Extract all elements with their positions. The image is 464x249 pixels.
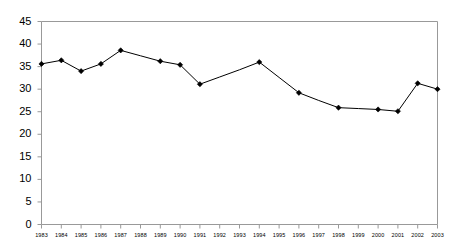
line-chart: 454035302520151050 198319841985198619871… [0, 0, 464, 249]
data-point-marker [376, 107, 381, 112]
data-point-marker [79, 69, 84, 74]
y-tick-label: 20 [8, 128, 32, 139]
data-series [42, 50, 438, 111]
axis-ticks [38, 22, 438, 229]
y-tick-label: 0 [8, 219, 32, 230]
y-tick-label: 25 [8, 106, 32, 117]
y-tick-label: 10 [8, 173, 32, 184]
data-point-marker [59, 58, 64, 63]
y-tick-label: 45 [8, 16, 32, 27]
y-tick-label: 35 [8, 61, 32, 72]
y-tick-label: 5 [8, 196, 32, 207]
y-tick-label: 15 [8, 151, 32, 162]
data-markers [39, 48, 440, 114]
y-tick-label: 30 [8, 83, 32, 94]
axes [42, 22, 438, 225]
y-tick-label: 40 [8, 38, 32, 49]
data-point-marker [435, 87, 440, 92]
data-point-marker [158, 59, 163, 64]
data-point-marker [39, 61, 44, 66]
data-point-marker [336, 105, 341, 110]
plot-area [0, 0, 464, 249]
x-tick-label: 2003 [423, 232, 453, 239]
series-line [42, 50, 438, 111]
